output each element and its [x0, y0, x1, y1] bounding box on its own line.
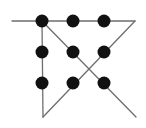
dot-r0-c1	[67, 15, 80, 28]
nine-dots-diagram	[0, 0, 146, 128]
dot-r1-c2	[98, 46, 111, 59]
dot-r1-c1	[67, 46, 80, 59]
dot-r2-c2	[98, 77, 111, 90]
dot-r2-c0	[36, 77, 49, 90]
dot-r0-c0	[36, 15, 49, 28]
dot-r1-c0	[36, 46, 49, 59]
dot-r2-c1	[67, 77, 80, 90]
dot-r0-c2	[98, 15, 111, 28]
